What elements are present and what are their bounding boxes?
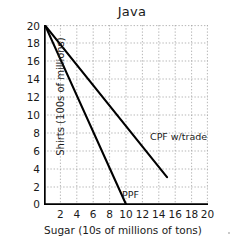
series-label-ppf: PPF bbox=[122, 190, 139, 200]
y-tick-label: 0 bbox=[33, 199, 40, 210]
y-tick-label: 20 bbox=[27, 20, 40, 31]
y-tick-label: 6 bbox=[33, 146, 40, 157]
y-tick-label: 2 bbox=[33, 182, 40, 193]
series-label-cpf-with-trade: CPF w/trade bbox=[150, 132, 207, 142]
x-tick-label: 14 bbox=[152, 209, 165, 220]
y-tick-label: 18 bbox=[27, 38, 40, 49]
x-tick-label: 2 bbox=[57, 209, 64, 220]
y-tick-label: 10 bbox=[27, 110, 40, 121]
x-tick-label: 4 bbox=[73, 209, 80, 220]
plot-canvas bbox=[44, 25, 208, 205]
x-tick-label: 6 bbox=[90, 209, 97, 220]
x-axis-title: Sugar (10s of millions of tons) bbox=[18, 224, 228, 236]
y-tick-label: 12 bbox=[27, 92, 40, 103]
chart-title: Java bbox=[0, 4, 236, 19]
y-tick-label: 14 bbox=[27, 74, 40, 85]
x-tick-label: 10 bbox=[119, 209, 132, 220]
x-tick-label: 12 bbox=[136, 209, 149, 220]
scan-artifact-speck bbox=[228, 232, 230, 234]
y-tick-label: 8 bbox=[33, 128, 40, 139]
x-tick-label: 20 bbox=[201, 209, 214, 220]
x-tick-label: 18 bbox=[185, 209, 198, 220]
plot-area: 20 18 16 14 12 10 8 6 4 2 0 2 4 6 8 10 1… bbox=[44, 25, 208, 205]
ppf-cpf-chart-figure: Java bbox=[0, 0, 236, 248]
y-axis-title: Shirts (100s of millions) bbox=[55, 17, 66, 177]
x-tick-label: 8 bbox=[106, 209, 113, 220]
x-tick-label: 16 bbox=[169, 209, 182, 220]
y-tick-label: 4 bbox=[33, 164, 40, 175]
y-tick-label: 16 bbox=[27, 56, 40, 67]
